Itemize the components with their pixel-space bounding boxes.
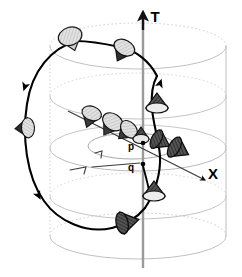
light-cone-left-edge xyxy=(14,117,35,138)
light-cone-upper-right xyxy=(146,93,168,113)
light-cone-lower-right xyxy=(143,181,165,201)
light-cone-bottom xyxy=(114,209,141,235)
cylinder-ring-lower xyxy=(50,173,226,219)
point-q-marker xyxy=(141,162,146,167)
cylinder-ring-upper xyxy=(50,73,226,119)
point-p-label: p xyxy=(128,141,134,152)
light-cone-upper-middle xyxy=(108,36,138,66)
point-q-label: q xyxy=(128,162,134,173)
space-axis-label: X xyxy=(208,165,218,182)
ctc-arrow-upper-left xyxy=(20,82,30,93)
diagram-canvas: T X xyxy=(0,0,242,277)
light-cone-top-left xyxy=(56,24,86,54)
time-axis-label: T xyxy=(150,8,159,25)
spacetime-diagram-figure: T X xyxy=(0,0,242,277)
point-p-marker xyxy=(141,141,146,146)
ctc-outer-left-arc xyxy=(25,41,112,229)
